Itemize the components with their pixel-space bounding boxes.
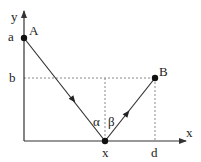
y-axis-label: y — [11, 9, 18, 24]
alpha-angle-label: α — [93, 114, 100, 129]
x-axis-label: x — [186, 125, 193, 140]
point-x — [102, 138, 108, 144]
point-b — [152, 75, 158, 81]
reflection-diagram: y x a A b B α β x d — [0, 0, 201, 162]
d-axis-label: d — [151, 145, 158, 160]
point-a — [21, 35, 27, 41]
point-b-label: B — [159, 64, 168, 79]
point-a-label: A — [29, 23, 39, 38]
b-axis-label: b — [9, 70, 16, 85]
guide-lines — [24, 78, 155, 141]
light-path — [24, 38, 155, 141]
a-axis-label: a — [8, 29, 14, 44]
beta-angle-label: β — [108, 114, 115, 129]
segment-x-to-b — [105, 78, 155, 141]
point-x-label: x — [102, 145, 109, 160]
points — [21, 35, 158, 144]
labels: y x a A b B α β x d — [8, 9, 193, 160]
